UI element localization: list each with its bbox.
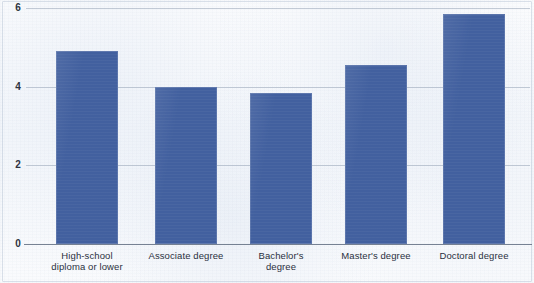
axis-baseline: [24, 244, 532, 245]
plot-area: 0246High-schooldiploma or lowerAssociate…: [0, 0, 534, 283]
x-axis-category-label: High-schooldiploma or lower: [34, 250, 140, 272]
category-label-line-2: degree: [228, 261, 334, 272]
y-axis-tick-label: 0: [4, 239, 21, 249]
x-axis-category-label: Bachelor'sdegree: [228, 250, 334, 272]
y-axis-tick-label: 4: [4, 82, 21, 92]
bar: [155, 87, 217, 244]
category-label-line-1: Associate degree: [148, 250, 223, 261]
y-axis-tick-label: 2: [4, 160, 21, 170]
gridline-6: [26, 8, 530, 9]
x-axis-category-label: Associate degree: [133, 250, 239, 261]
category-label-line-1: High-school: [61, 250, 112, 261]
bar: [345, 65, 407, 244]
bar: [250, 93, 312, 244]
bar-chart-figure: 0246High-schooldiploma or lowerAssociate…: [0, 0, 534, 283]
x-axis-category-label: Doctoral degree: [421, 250, 527, 261]
x-axis-category-label: Master's degree: [323, 250, 429, 261]
category-label-line-1: Doctoral degree: [439, 250, 508, 261]
category-label-line-2: diploma or lower: [34, 261, 140, 272]
bar: [56, 51, 118, 244]
category-label-line-1: Master's degree: [341, 250, 410, 261]
bar: [443, 14, 505, 244]
category-label-line-1: Bachelor's: [258, 250, 303, 261]
y-axis-tick-label: 6: [4, 3, 21, 13]
